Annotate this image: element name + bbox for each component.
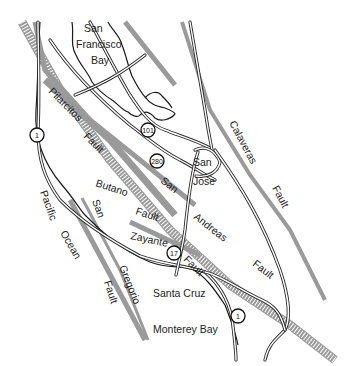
hwy17-label: 17 — [170, 250, 178, 257]
hwy101-label: 101 — [142, 127, 154, 134]
sf-bay-label-1: San — [84, 22, 103, 34]
santa-cruz-label: Santa Cruz — [153, 287, 206, 299]
san-jose-label-1: San — [193, 156, 212, 168]
san-gregorio-fault — [70, 200, 145, 340]
zayante-label-1: Zayante — [130, 229, 170, 249]
hwy1-north-label: 1 — [35, 132, 39, 139]
hwy101-shield: 101 — [141, 123, 155, 137]
hwy1-south-label: 1 — [236, 313, 240, 320]
san-gregorio-label-3: Fault — [102, 279, 121, 305]
san-andreas-label-3: Fault — [251, 257, 277, 281]
hwy1-south-shield: 1 — [231, 309, 245, 323]
fault-map: 1 101 280 17 1 San Francisco Bay Pacific… — [0, 0, 358, 366]
monterey-bay-label: Monterey Bay — [153, 323, 219, 335]
san-andreas-label-2: Andreas — [192, 210, 230, 244]
calaveras-label-1: Calaveras — [227, 118, 260, 165]
san-jose-label-2: Jose — [193, 175, 215, 187]
sf-bay-label-2: Francisco — [76, 38, 122, 50]
butano-label-2: Fault — [134, 204, 160, 223]
sf-bay-label-3: Bay — [91, 54, 110, 66]
hwy280-label: 280 — [151, 158, 163, 165]
hwy17-shield: 17 — [167, 246, 181, 260]
hwy280-shield: 280 — [150, 154, 164, 168]
pacific-label-2: Ocean — [58, 228, 84, 261]
hwy1-north-shield: 1 — [30, 128, 44, 142]
